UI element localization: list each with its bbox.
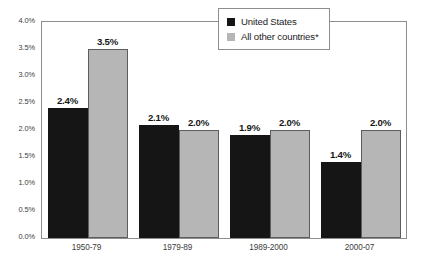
x-axis: 1950-791979-891989-20002000-07 [41, 243, 405, 261]
x-axis-tick-label: 1979-89 [133, 243, 223, 252]
y-axis-tick-label: 4.0% [0, 17, 35, 25]
bar-chart: 4.0%3.5%3.0%2.5%2.0%1.5%1.0%0.5%0.0% 2.4… [0, 0, 423, 264]
y-axis-tick-label: 2.5% [0, 98, 35, 106]
plot-inner: 2.4%3.5%2.1%2.0%1.9%2.0%1.4%2.0% [42, 22, 406, 238]
bar [88, 49, 128, 238]
x-axis-tick-label: 1989-2000 [224, 243, 314, 252]
bar-value-label: 1.4% [315, 149, 367, 160]
legend-label-all-other-countries: All other countries* [241, 31, 319, 42]
bar [48, 108, 88, 238]
legend-swatch-icon-all-other-countries [227, 33, 235, 41]
x-axis-tick-label: 1950-79 [42, 243, 132, 252]
y-axis-tick-label: 2.0% [0, 125, 35, 133]
bar-value-label: 3.5% [82, 36, 134, 47]
bar-value-label: 2.4% [42, 95, 94, 106]
legend-label-united-states: United States [241, 16, 297, 27]
bar-value-label: 2.0% [173, 117, 225, 128]
bar-value-label: 2.0% [355, 117, 407, 128]
chart-legend: United States All other countries* [218, 8, 330, 50]
bar [361, 130, 401, 238]
legend-item-united-states: United States [227, 14, 319, 29]
bar [321, 162, 361, 238]
y-axis-tick-label: 3.5% [0, 44, 35, 52]
bar [179, 130, 219, 238]
bar-group: 2.4%3.5% [48, 22, 128, 238]
legend-swatch-icon-united-states [227, 18, 235, 26]
x-axis-tick-label: 2000-07 [315, 243, 405, 252]
bar [230, 135, 270, 238]
bar [139, 125, 179, 238]
y-axis-tick-label: 1.0% [0, 179, 35, 187]
y-axis-tick-label: 3.0% [0, 71, 35, 79]
bar-group: 1.4%2.0% [321, 22, 401, 238]
plot-area: 2.4%3.5%2.1%2.0%1.9%2.0%1.4%2.0% [41, 21, 407, 239]
y-axis-tick-label: 0.0% [0, 233, 35, 241]
legend-item-all-other-countries: All other countries* [227, 29, 319, 44]
bar-group: 2.1%2.0% [139, 22, 219, 238]
y-axis-tick-label: 1.5% [0, 152, 35, 160]
y-axis: 4.0%3.5%3.0%2.5%2.0%1.5%1.0%0.5%0.0% [0, 0, 38, 264]
bar-group: 1.9%2.0% [230, 22, 310, 238]
bar-value-label: 2.0% [264, 117, 316, 128]
y-axis-tick-label: 0.5% [0, 206, 35, 214]
bar [270, 130, 310, 238]
